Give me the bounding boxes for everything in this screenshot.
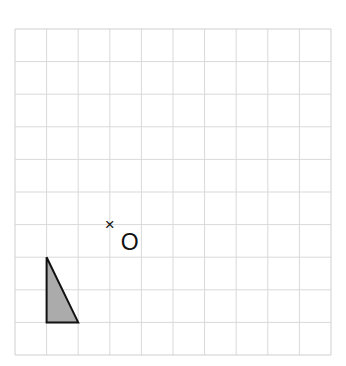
cross-marker-icon: × xyxy=(105,215,115,234)
point-label-o: O xyxy=(121,229,139,255)
grid-diagram: × O xyxy=(0,0,346,366)
